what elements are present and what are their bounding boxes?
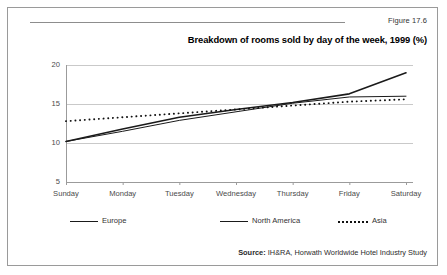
legend-swatch-icon xyxy=(220,217,248,224)
legend-item-asia: Asia xyxy=(338,216,387,225)
y-tick-label-5: 5 xyxy=(38,177,60,186)
legend-label: North America xyxy=(252,216,300,225)
legend-swatch-icon xyxy=(70,217,98,224)
source-note: Source: IH&RA, Horwath Worldwide Hotel I… xyxy=(238,248,427,257)
legend-item-europe: Europe xyxy=(70,216,127,225)
legend-label: Europe xyxy=(102,216,127,225)
source-label: Source: xyxy=(238,248,266,257)
y-tick-label-10: 10 xyxy=(38,138,60,147)
y-tick-label-15: 15 xyxy=(38,99,60,108)
legend-label: Asia xyxy=(372,216,387,225)
series-line-europe xyxy=(66,96,406,141)
series-line-north-america xyxy=(66,73,406,142)
y-tick-label-20: 20 xyxy=(38,60,60,69)
legend-item-north-america: North America xyxy=(220,216,300,225)
legend-swatch-icon xyxy=(338,217,368,224)
chart-legend: EuropeNorth AmericaAsia xyxy=(8,216,439,238)
figure-frame: Figure 17.6 Breakdown of rooms sold by d… xyxy=(7,7,438,266)
source-text: IH&RA, Horwath Worldwide Hotel Industry … xyxy=(266,248,427,257)
x-tick-label-saturday: Saturday xyxy=(371,189,441,198)
